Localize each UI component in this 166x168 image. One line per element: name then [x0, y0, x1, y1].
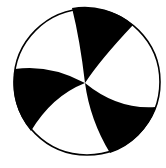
beachball-diagram [0, 0, 166, 168]
beachball-svg [0, 0, 166, 168]
